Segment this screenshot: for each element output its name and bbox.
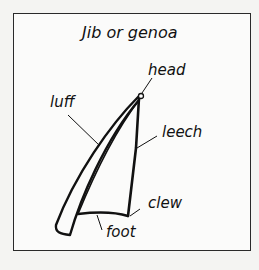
label-clew: clew [148, 194, 183, 212]
sail-shape [56, 94, 144, 236]
jib-sail-diagram: Jib or genoa head luff leech clew foot [0, 0, 259, 270]
label-head: head [148, 61, 186, 79]
label-leech: leech [162, 123, 202, 141]
diagram-title: Jib or genoa [79, 23, 178, 42]
label-foot: foot [106, 223, 137, 241]
label-luff: luff [50, 93, 77, 111]
